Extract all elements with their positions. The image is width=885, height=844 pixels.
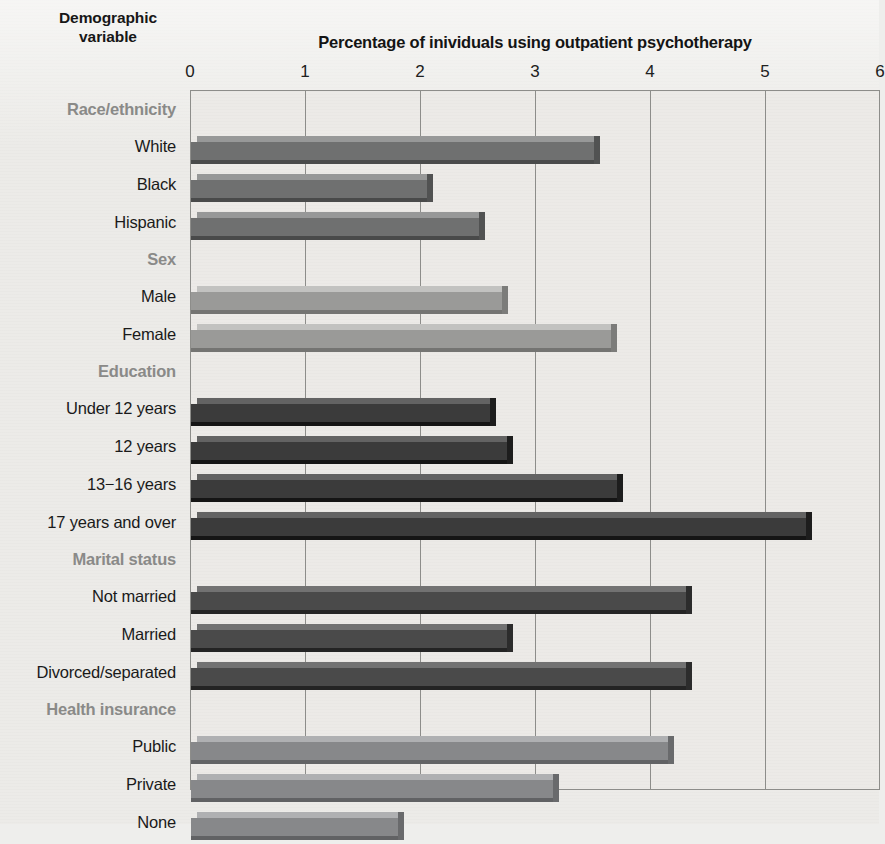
bar-row: Divorced/separated — [0, 656, 879, 694]
bar-face — [191, 218, 479, 240]
group-header-row: Sex — [0, 244, 879, 280]
group-label-race-ethnicity: Race/ethnicity — [0, 100, 176, 119]
bar-side-face — [806, 512, 812, 540]
bar-row: Male — [0, 280, 879, 318]
bar-label-13-16-years: 13−16 years — [0, 475, 176, 494]
bar — [191, 180, 427, 202]
bar-face — [191, 404, 490, 426]
bar-top-face — [197, 212, 485, 218]
bar-side-face — [617, 474, 623, 502]
bar-label-divorced-separated: Divorced/separated — [0, 663, 176, 682]
chart-rows: Race/ethnicityWhiteBlackHispanicSexMaleF… — [0, 90, 879, 790]
bar-top-face — [197, 662, 692, 668]
bar-top-face — [197, 324, 617, 330]
bar-label-private: Private — [0, 775, 176, 794]
bar-side-face — [502, 286, 508, 314]
bar-top-face — [197, 586, 692, 592]
bar-top-face — [197, 436, 513, 442]
bar-top-face — [197, 512, 812, 518]
bar-side-face — [611, 324, 617, 352]
bar-row: Under 12 years — [0, 392, 879, 430]
x-tick-2: 2 — [415, 62, 424, 82]
bar — [191, 742, 668, 764]
bar-label-white: White — [0, 137, 176, 156]
bar-face — [191, 818, 398, 840]
bar-face — [191, 180, 427, 202]
bar-label-under-12-years: Under 12 years — [0, 399, 176, 418]
bar-top-face — [197, 398, 496, 404]
bar-row: None — [0, 806, 879, 844]
bar-label-none: None — [0, 813, 176, 832]
bar-label-male: Male — [0, 287, 176, 306]
group-label-sex: Sex — [0, 250, 176, 269]
y-axis-title: Demographic variable — [28, 8, 188, 46]
group-header-row: Marital status — [0, 544, 879, 580]
group-header-row: Race/ethnicity — [0, 94, 879, 130]
bar-label-not-married: Not married — [0, 587, 176, 606]
bar-top-face — [197, 736, 674, 742]
bar — [191, 592, 686, 614]
group-header-row: Health insurance — [0, 694, 879, 730]
bar-label-public: Public — [0, 737, 176, 756]
y-axis-title-line1: Demographic — [59, 9, 157, 26]
bar — [191, 330, 611, 352]
bar-label-17-years-and-over: 17 years and over — [0, 513, 176, 532]
bar-side-face — [479, 212, 485, 240]
bar-face — [191, 742, 668, 764]
bar-side-face — [427, 174, 433, 202]
bar — [191, 292, 502, 314]
bar-row: 12 years — [0, 430, 879, 468]
chart-title: Percentage of inividuals using outpatien… — [190, 33, 880, 52]
bar-row: Hispanic — [0, 206, 879, 244]
group-label-marital-status: Marital status — [0, 550, 176, 569]
bar-top-face — [197, 812, 404, 818]
bar-label-married: Married — [0, 625, 176, 644]
group-header-row: Education — [0, 356, 879, 392]
bar-side-face — [594, 136, 600, 164]
bar-top-face — [197, 286, 508, 292]
x-tick-5: 5 — [760, 62, 769, 82]
x-axis-tick-labels: 0123456 — [0, 62, 879, 86]
bar-row: 17 years and over — [0, 506, 879, 544]
bar-label-black: Black — [0, 175, 176, 194]
bar — [191, 442, 507, 464]
bar-face — [191, 668, 686, 690]
bar-face — [191, 330, 611, 352]
group-label-education: Education — [0, 362, 176, 381]
bar-label-12-years: 12 years — [0, 437, 176, 456]
bar-side-face — [398, 812, 404, 840]
x-tick-0: 0 — [185, 62, 194, 82]
bar-top-face — [197, 474, 623, 480]
bar-side-face — [507, 436, 513, 464]
bar-face — [191, 592, 686, 614]
bar-side-face — [686, 662, 692, 690]
x-tick-4: 4 — [645, 62, 654, 82]
bar — [191, 218, 479, 240]
bar — [191, 142, 594, 164]
x-tick-1: 1 — [300, 62, 309, 82]
bar — [191, 404, 490, 426]
bar-side-face — [686, 586, 692, 614]
bar-face — [191, 518, 806, 540]
bar-face — [191, 480, 617, 502]
x-tick-6: 6 — [875, 62, 884, 82]
bar-row: White — [0, 130, 879, 168]
bar-face — [191, 630, 507, 652]
bar-label-female: Female — [0, 325, 176, 344]
bar — [191, 668, 686, 690]
bar-top-face — [197, 624, 513, 630]
bar-top-face — [197, 774, 559, 780]
bar-row: Not married — [0, 580, 879, 618]
bar-face — [191, 142, 594, 164]
bar-side-face — [668, 736, 674, 764]
bar-top-face — [197, 136, 600, 142]
bar-row: Private — [0, 768, 879, 806]
bar — [191, 630, 507, 652]
bar-face — [191, 780, 553, 802]
bar — [191, 780, 553, 802]
y-axis-title-line2: variable — [28, 27, 188, 46]
bar-label-hispanic: Hispanic — [0, 213, 176, 232]
bar — [191, 480, 617, 502]
x-tick-3: 3 — [530, 62, 539, 82]
